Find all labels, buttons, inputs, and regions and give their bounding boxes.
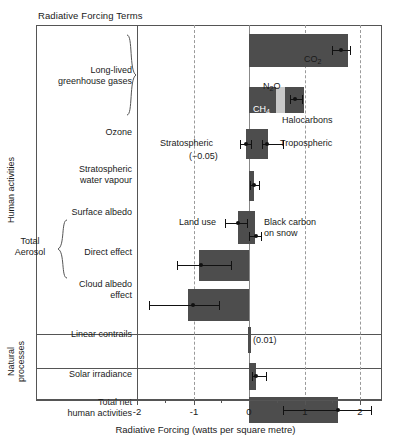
errorbar-co2 (332, 46, 351, 55)
xtick-minor-plus0-5 (277, 400, 278, 403)
row-label-stratospheric-water-vapour: Stratospheric water vapour (36, 164, 137, 186)
xticklabel-minus1: -1 (179, 406, 209, 417)
row-label-solar-irradiance: Solar irradiance (36, 369, 137, 380)
errorbar-aerosol-cloud-albedo-effect (149, 301, 220, 310)
brace-total-aerosol (57, 218, 69, 280)
label-ozone-tropospheric: Tropospheric (280, 138, 332, 149)
chart-title: Radiative Forcing Terms (38, 10, 143, 21)
row-label-linear-contrails: Linear contrails (36, 329, 137, 340)
xtick-minus2 (137, 400, 138, 405)
row-label-long-lived-greenhouse-gases: Long-lived greenhouse gases (36, 65, 137, 87)
x-axis-line (36, 400, 382, 401)
xtick-minor-plus1-5 (332, 400, 333, 403)
xtick-plus1 (305, 400, 306, 405)
plot-area: CO2 CH4 N2O Halocarbons Stratospheric (−… (137, 25, 382, 400)
gridline-minus1 (194, 25, 196, 400)
radiative-forcing-figure: Radiative Forcing Terms Human activities… (0, 0, 411, 445)
row-label-surface-albedo: Surface albedo (36, 207, 137, 218)
row-label-cloud-albedo-effect: Cloud albedo effect (36, 279, 137, 301)
xticklabel-minus2: -2 (122, 406, 152, 417)
errorbar-halocarbons (290, 95, 303, 104)
label-ch4: CH4 (253, 93, 270, 115)
gridline-plus1 (305, 25, 307, 400)
x-axis-title: Radiative Forcing (watts per square metr… (0, 424, 411, 435)
label-black-carbon-on-snow: Black carbon on snow (264, 217, 316, 238)
xtick-minus1 (194, 400, 195, 405)
label-contrail-value: (0.01) (253, 335, 277, 346)
label-co2: CO2 (304, 43, 321, 65)
label-n2o: N2O (263, 70, 280, 92)
bar-linear-contrails (248, 327, 251, 353)
xtick-plus2 (360, 400, 361, 405)
xticklabel-zero: 0 (234, 406, 264, 417)
xticklabel-plus2: 2 (345, 406, 375, 417)
group-label-total-aerosol: Total Aerosol (4, 236, 56, 258)
errorbar-aerosol-direct-effect (177, 261, 232, 270)
side-label-human-activities: Human activities (6, 130, 16, 250)
xtick-minor-minus0-5 (221, 400, 222, 403)
label-ozone-stratospheric-value: (−0.05) (189, 151, 218, 162)
label-ozone-stratospheric: Stratospheric (160, 138, 213, 149)
errorbar-stratospheric-water-vapour (250, 181, 260, 190)
errorbar-black-carbon-on-snow (249, 232, 262, 241)
errorbar-land-use (225, 219, 248, 228)
side-label-natural-processes: Natural processes (6, 324, 30, 398)
errorbar-ozone-stratospheric (240, 140, 252, 149)
xtick-minor-minus1-5 (165, 400, 166, 403)
gridline-plus2 (360, 25, 362, 400)
errorbar-ozone-tropospheric (262, 140, 284, 149)
row-label-column: Long-lived greenhouse gases Ozone Strato… (36, 25, 137, 400)
xticklabel-plus1: 1 (290, 406, 320, 417)
row-label-ozone: Ozone (36, 127, 137, 138)
xtick-zero (249, 400, 250, 405)
errorbar-solar-irradiance (252, 372, 267, 381)
label-land-use: Land use (179, 217, 216, 228)
label-halocarbons: Halocarbons (282, 115, 333, 126)
